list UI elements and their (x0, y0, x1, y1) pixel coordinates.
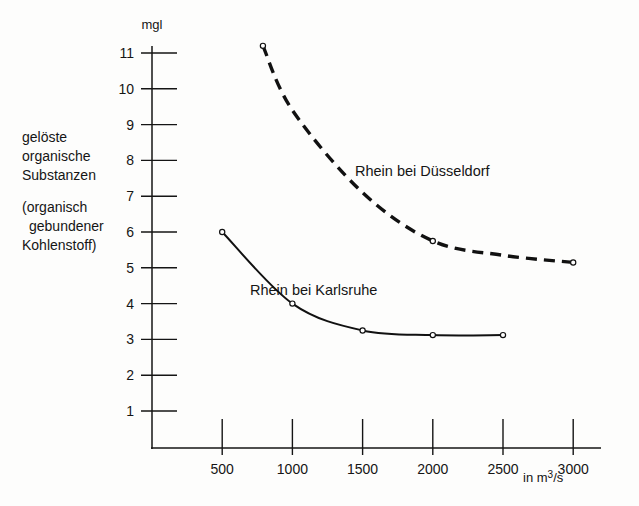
series-path-1 (263, 46, 573, 263)
chart-page: gelöste organische Substanzen (organisch… (0, 0, 639, 506)
x-tick-label-500: 500 (211, 461, 235, 477)
y-tick-label-4: 4 (126, 296, 134, 312)
series-label-karlsruhe: Rhein bei Karlsruhe (250, 282, 377, 298)
data-point-marker (500, 333, 505, 338)
chart-plot: 1234567891011 50010001500200025003000 mg… (0, 0, 639, 506)
x-tick-label-1000: 1000 (277, 461, 308, 477)
data-point-marker (360, 328, 365, 333)
y-tick-label-1: 1 (126, 403, 134, 419)
y-tick-label-7: 7 (126, 188, 134, 204)
data-point-marker (260, 43, 265, 48)
y-axis-unit-label: mgl (142, 17, 163, 32)
y-axis-ticks: 1234567891011 (118, 45, 177, 419)
y-tick-label-2: 2 (126, 367, 134, 383)
y-tick-label-10: 10 (118, 81, 134, 97)
x-axis-unit-label: in m3/s (523, 469, 564, 485)
y-tick-label-9: 9 (126, 117, 134, 133)
x-tick-label-2500: 2500 (487, 461, 518, 477)
series-1 (260, 43, 575, 265)
y-tick-label-3: 3 (126, 331, 134, 347)
axes (151, 46, 601, 449)
data-point-marker (290, 301, 295, 306)
data-point-marker (430, 238, 435, 243)
y-tick-label-11: 11 (119, 45, 134, 61)
y-tick-label-5: 5 (126, 260, 134, 276)
series-label-duesseldorf: Rhein bei Düsseldorf (355, 163, 491, 179)
y-tick-label-6: 6 (126, 224, 134, 240)
y-tick-label-8: 8 (126, 152, 134, 168)
data-point-marker (220, 229, 225, 234)
data-point-marker (430, 333, 435, 338)
x-tick-label-1500: 1500 (347, 461, 378, 477)
x-tick-label-2000: 2000 (417, 461, 448, 477)
data-point-marker (571, 260, 576, 265)
